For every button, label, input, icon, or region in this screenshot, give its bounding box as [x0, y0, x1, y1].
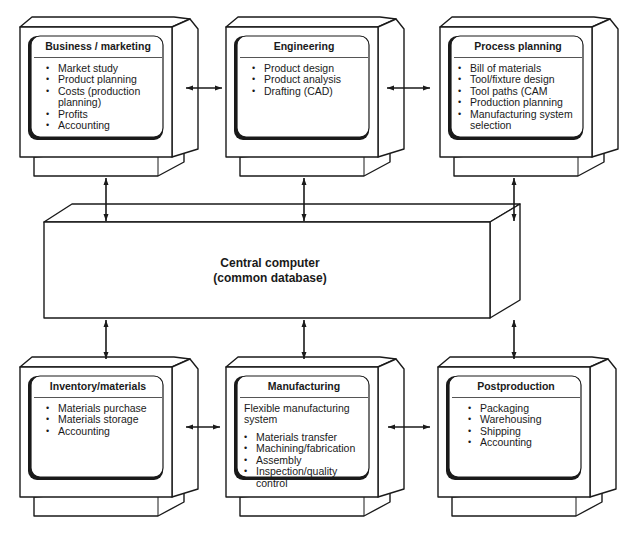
station-title: Engineering [242, 37, 366, 57]
station-title: Inventory/materials [36, 377, 160, 397]
station-title: Postproduction [454, 377, 578, 397]
monitor-top [440, 17, 610, 27]
station-items: Materials purchaseMaterials storageAccou… [44, 403, 160, 438]
station-item: Inspection/quality control [242, 466, 366, 489]
station-item: Tool/fixture design [456, 74, 580, 86]
title-divider [34, 57, 162, 58]
title-divider [240, 57, 368, 58]
title-divider [240, 397, 368, 398]
monitor-side [172, 359, 198, 497]
monitor-side [590, 359, 616, 497]
station-item: Accounting [44, 120, 160, 132]
station-business-marketing: Business / marketing Market studyProduct… [36, 37, 160, 132]
station-item: Costs (production planning) [44, 86, 160, 109]
monitor-top [20, 357, 190, 367]
station-items: Bill of materialsTool/fixture designTool… [456, 63, 580, 132]
monitor-top [226, 357, 396, 367]
station-postproduction: Postproduction PackagingWarehousingShipp… [454, 377, 578, 449]
central-subtitle: (common database) [213, 271, 326, 286]
station-title: Manufacturing [242, 377, 366, 397]
monitor-top [438, 357, 608, 367]
central-title: Central computer [220, 256, 319, 271]
station-manufacturing: Manufacturing Flexible manufacturing sys… [242, 377, 366, 489]
station-item: Accounting [466, 437, 578, 449]
title-divider [34, 397, 162, 398]
station-item: Machining/fabrication [242, 443, 366, 455]
station-process-planning: Process planning Bill of materialsTool/f… [456, 37, 580, 132]
station-item: Accounting [44, 426, 160, 438]
station-item: Manufacturing system selection [456, 109, 580, 132]
station-items: Product designProduct analysisDrafting (… [250, 63, 366, 98]
monitor-top [20, 17, 190, 27]
title-divider [454, 57, 582, 58]
station-items: PackagingWarehousingShippingAccounting [466, 403, 578, 449]
station-items: Materials transferMachining/fabricationA… [242, 432, 366, 490]
station-intro: Flexible manufacturing system [244, 403, 366, 426]
station-inventory-materials: Inventory/materials Materials purchaseMa… [36, 377, 160, 437]
station-engineering: Engineering Product designProduct analys… [242, 37, 366, 97]
station-items: Market studyProduct planningCosts (produ… [44, 63, 160, 132]
station-item: Warehousing [466, 414, 578, 426]
monitor-side [378, 359, 404, 497]
title-divider [452, 397, 580, 398]
station-item: Production planning [456, 97, 580, 109]
central-computer: Central computer (common database) [46, 222, 494, 320]
station-title: Business / marketing [36, 37, 160, 57]
central-top-face [44, 204, 520, 222]
central-side-face [490, 204, 520, 318]
monitor-top [226, 17, 396, 27]
station-item: Product planning [44, 74, 160, 86]
station-item: Drafting (CAD) [250, 86, 366, 98]
station-title: Process planning [456, 37, 580, 57]
monitor-side [592, 19, 618, 157]
station-item: Product analysis [250, 74, 366, 86]
station-item: Materials storage [44, 414, 160, 426]
